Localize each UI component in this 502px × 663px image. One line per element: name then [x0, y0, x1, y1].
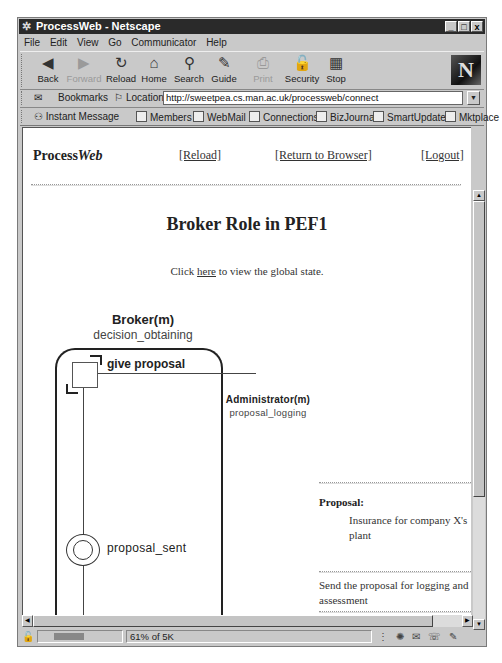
- print-button[interactable]: ⎙ Print: [245, 53, 281, 87]
- global-state-text: Click here to view the global state.: [23, 265, 471, 277]
- grip-icon: ⋮: [378, 630, 388, 643]
- toolbar-grip[interactable]: [21, 54, 25, 87]
- page-content: ProcessWeb [Reload] [Return to Browser] …: [22, 127, 471, 615]
- reload-link[interactable]: [Reload]: [179, 148, 221, 163]
- navigation-toolbar: ◀ Back ▶ Forward ↻ Reload ⌂ Home ⚲ Searc…: [20, 51, 484, 90]
- action-label[interactable]: give proposal: [107, 357, 185, 371]
- menu-edit[interactable]: Edit: [50, 37, 67, 48]
- smartupdate-button[interactable]: SmartUpdate: [373, 111, 446, 123]
- search-button[interactable]: ⚲ Search: [171, 53, 207, 87]
- members-button[interactable]: Members: [136, 111, 192, 123]
- back-icon: ◀: [30, 53, 66, 73]
- personal-toolbar: ⚇ Instant Message Members WebMail Connec…: [20, 108, 484, 126]
- partner-role-state: proposal_logging: [213, 407, 323, 418]
- process-line: [83, 386, 84, 615]
- url-dropdown-button[interactable]: ▼: [467, 91, 480, 105]
- instant-message-button[interactable]: ⚇ Instant Message: [34, 111, 119, 122]
- proposal-label: Proposal:: [319, 496, 364, 508]
- menu-view[interactable]: View: [77, 37, 99, 48]
- guide-button[interactable]: ✎ Guide: [206, 53, 242, 87]
- menu-bar: File Edit View Go Communicator Help: [20, 35, 484, 50]
- scroll-right-button[interactable]: ▶: [462, 615, 473, 627]
- guide-icon: ✎: [206, 53, 242, 73]
- proposal-value: Insurance for company X's plant: [349, 513, 471, 543]
- page-title: Broker Role in PEF1: [23, 214, 471, 235]
- bookmark-page-icon: [316, 111, 327, 122]
- location-icon: ⚐: [114, 92, 123, 103]
- person-icon: ⚇: [34, 111, 46, 122]
- minimize-button[interactable]: _: [445, 21, 457, 32]
- horizontal-scroll-thumb[interactable]: [33, 615, 433, 627]
- reload-icon: ↻: [103, 53, 139, 73]
- home-icon: ⌂: [136, 53, 172, 73]
- back-button[interactable]: ◀ Back: [30, 53, 66, 87]
- bookmark-page-icon: [249, 111, 260, 122]
- progress-bar: [37, 630, 123, 643]
- bizjournal-button[interactable]: BizJournal: [316, 111, 377, 123]
- bookmark-page-icon: [373, 111, 384, 122]
- connections-button[interactable]: Connections: [249, 111, 319, 123]
- mktplace-button[interactable]: Mktplace: [445, 111, 499, 123]
- state-label: proposal_sent: [107, 541, 186, 555]
- menu-communicator[interactable]: Communicator: [131, 37, 196, 48]
- menu-help[interactable]: Help: [206, 37, 227, 48]
- scroll-up-button[interactable]: ▲: [473, 190, 485, 201]
- action-corner-top-right: [90, 355, 102, 365]
- details-divider-middle: [319, 571, 471, 573]
- composer-icon[interactable]: ✎: [449, 630, 457, 643]
- bookmark-page-icon: [193, 111, 204, 122]
- discussion-icon[interactable]: ☏: [428, 630, 441, 643]
- security-lock-icon[interactable]: 🔓: [22, 631, 34, 642]
- toolbar-grip[interactable]: [21, 110, 25, 123]
- forward-button[interactable]: ▶ Forward: [66, 53, 102, 87]
- global-state-link[interactable]: here: [197, 265, 216, 277]
- processweb-logo: ProcessWeb: [33, 148, 102, 164]
- toolbar-grip[interactable]: [21, 91, 25, 105]
- netscape-logo[interactable]: N: [451, 55, 481, 85]
- mail-icon[interactable]: ✉: [412, 630, 420, 643]
- horizontal-scrollbar[interactable]: ◀ ▶: [22, 615, 473, 627]
- role-state: decision_obtaining: [63, 328, 223, 342]
- role-boundary: [55, 348, 223, 615]
- header-divider: [31, 184, 461, 186]
- menu-go[interactable]: Go: [108, 37, 121, 48]
- home-button[interactable]: ⌂ Home: [136, 53, 172, 87]
- security-button[interactable]: 🔓 Security: [284, 53, 320, 87]
- partner-role-name: Administrator(m): [213, 394, 323, 405]
- forward-icon: ▶: [66, 53, 102, 73]
- status-bar: 🔓 61% of 5K ⋮ ✺ ✉ ☏ ✎: [20, 629, 484, 645]
- state-node-inner: [73, 540, 93, 560]
- details-divider-bottom: [319, 611, 471, 613]
- webmail-button[interactable]: WebMail: [193, 111, 246, 123]
- vertical-scrollbar[interactable]: ▲ ▼: [473, 190, 485, 630]
- close-button[interactable]: x: [471, 21, 483, 32]
- url-input[interactable]: http://sweetpea.cs.man.ac.uk/processweb/…: [163, 91, 463, 105]
- bookmark-page-icon: [445, 111, 456, 122]
- window-title: ProcessWeb - Netscape: [36, 19, 161, 34]
- netscape-app-icon: ✲: [22, 20, 34, 32]
- component-bar: ⋮ ✺ ✉ ☏ ✎: [374, 630, 478, 643]
- return-to-browser-link[interactable]: [Return to Browser]: [275, 148, 372, 163]
- interaction-line: [96, 373, 256, 374]
- status-text: 61% of 5K: [126, 630, 372, 643]
- location-label: Location:: [126, 92, 167, 103]
- bookmark-page-icon: [136, 111, 147, 122]
- progress-fill: [54, 633, 84, 640]
- bookmarks-button[interactable]: Bookmarks: [58, 92, 108, 103]
- scroll-left-button[interactable]: ◀: [22, 615, 33, 627]
- print-icon: ⎙: [245, 53, 281, 73]
- logout-link[interactable]: [Logout]: [421, 148, 464, 163]
- stop-button[interactable]: ▦ Stop: [318, 53, 354, 87]
- browser-window: ✲ ProcessWeb - Netscape _ □ x File Edit …: [17, 17, 487, 647]
- role-name: Broker(m): [83, 312, 203, 327]
- bookmark-icon: ✉: [34, 92, 42, 103]
- details-divider-top: [319, 482, 471, 484]
- menu-file[interactable]: File: [24, 37, 40, 48]
- navigator-icon[interactable]: ✺: [396, 630, 404, 643]
- vertical-scroll-thumb[interactable]: [473, 201, 485, 497]
- stop-icon: ▦: [318, 53, 354, 73]
- search-icon: ⚲: [171, 53, 207, 73]
- reload-button[interactable]: ↻ Reload: [103, 53, 139, 87]
- location-toolbar: ✉ Bookmarks ⚐ Location: http://sweetpea.…: [20, 89, 484, 108]
- maximize-button[interactable]: □: [458, 21, 470, 32]
